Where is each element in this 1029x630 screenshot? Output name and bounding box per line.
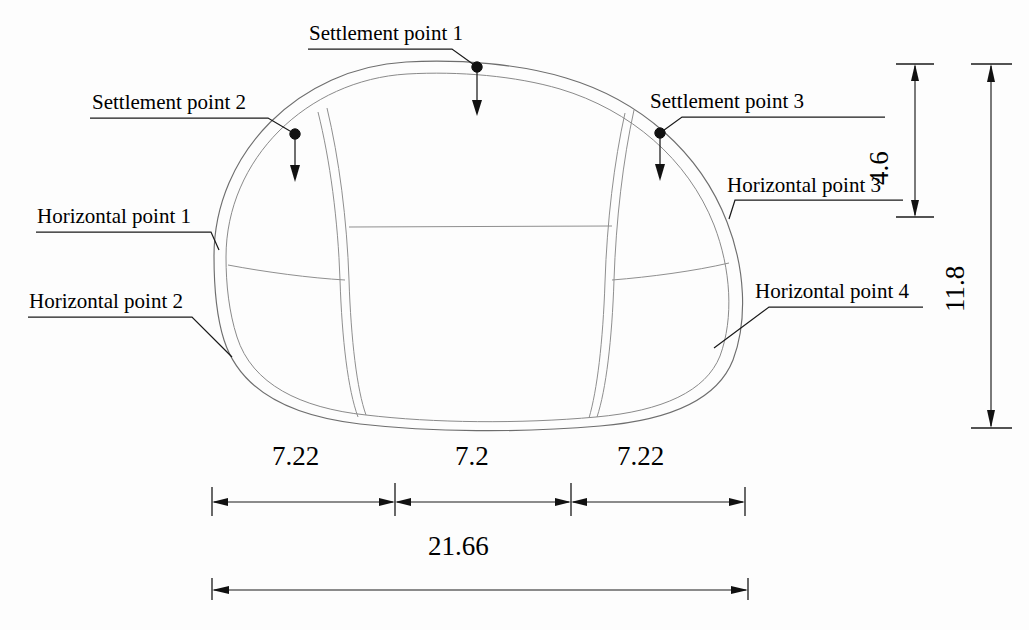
settlement-point-1-leader <box>308 49 477 67</box>
dim-arrow-span-total-end <box>731 586 748 594</box>
settlement-point-2-label: Settlement point 2 <box>92 92 246 113</box>
dim-arrow-span-right-start <box>571 498 587 506</box>
dim-arrow-height-total-bottom <box>987 410 995 428</box>
dim-arrow-span-right-end <box>729 498 745 506</box>
dim-label-height-total: 11.8 <box>942 266 969 312</box>
horizontal-point-3-leader <box>729 200 903 219</box>
settlement-point-2-leader <box>90 118 295 134</box>
dim-arrow-height-upper-top <box>911 64 919 81</box>
dim-arrow-span-left-end <box>379 498 395 506</box>
settlement-point-3-marker <box>655 128 665 138</box>
dim-arrow-span-left-start <box>212 498 228 506</box>
horizontal-point-2-leader <box>28 317 232 357</box>
horizontal-point-2-label: Horizontal point 2 <box>29 291 183 312</box>
dim-label-span-right: 7.22 <box>617 443 664 470</box>
dim-arrow-height-upper-bottom <box>911 200 919 217</box>
settlement-point-1-arrow-head <box>472 100 482 116</box>
settlement-point-2-arrow-head <box>290 165 300 182</box>
horizontal-point-1-label: Horizontal point 1 <box>37 206 191 227</box>
dim-label-span-left: 7.22 <box>272 443 319 470</box>
settlement-point-1-label: Settlement point 1 <box>309 23 463 44</box>
settlement-point-3-label: Settlement point 3 <box>650 91 804 112</box>
dim-arrow-span-center-start <box>395 498 411 506</box>
partition-left-rib <box>318 112 358 417</box>
dim-arrow-span-total-start <box>212 586 229 594</box>
partition-bench-line <box>349 226 612 227</box>
tunnel-outer-outline <box>214 61 743 431</box>
horizontal-point-4-leader <box>714 307 923 348</box>
dim-label-span-total: 21.66 <box>428 533 489 560</box>
settlement-point-2-marker <box>290 129 300 139</box>
partition-left-haunch <box>228 265 345 280</box>
partition-right-rib <box>597 110 634 417</box>
dim-label-height-upper: 4.6 <box>866 151 893 185</box>
dim-arrow-span-center-end <box>555 498 571 506</box>
settlement-point-1-marker <box>472 62 482 72</box>
tunnel-inner-lining <box>226 73 729 422</box>
dim-label-span-center: 7.2 <box>455 443 489 470</box>
horizontal-point-4-label: Horizontal point 4 <box>755 281 909 302</box>
settlement-point-3-arrow-head <box>655 164 665 181</box>
horizontal-point-3-label: Horizontal point 3 <box>727 175 881 196</box>
dim-arrow-height-total-top <box>987 64 995 82</box>
figure-canvas: Settlement point 1 Settlement point 2 Se… <box>0 0 1029 630</box>
settlement-point-3-leader <box>660 117 885 133</box>
partition-right-haunch <box>612 263 729 280</box>
horizontal-point-1-leader <box>36 232 219 250</box>
